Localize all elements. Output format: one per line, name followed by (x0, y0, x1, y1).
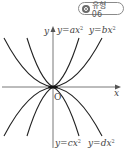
curve-label-ax2: y=ax2 (56, 25, 83, 35)
y-axis-arrow-icon (51, 26, 56, 32)
curve-label-dx2: y=dx2 (87, 138, 115, 148)
x-axis-label: x (114, 88, 119, 98)
parabola-diagram: y x O y=ax2 y=bx2 y=cx2 y=dx2 (0, 0, 124, 151)
y-axis-label: y (43, 26, 50, 36)
origin-label: O (54, 92, 61, 102)
curve-label-bx2: y=bx2 (88, 25, 116, 35)
curve-label-cx2: y=cx2 (54, 138, 81, 148)
vertex-point (48, 85, 58, 88)
